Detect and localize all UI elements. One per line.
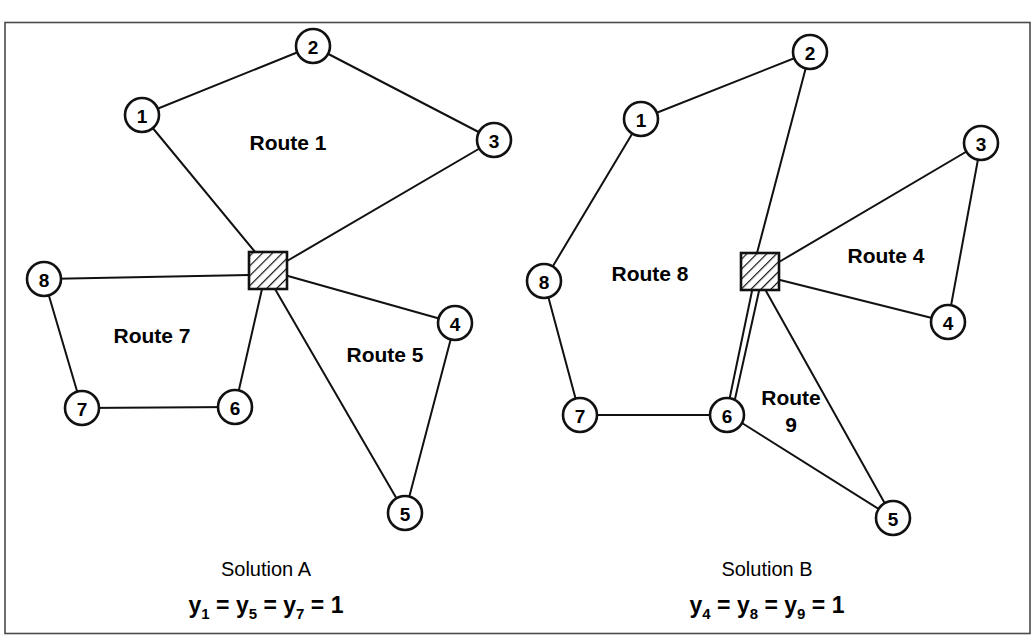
route-label-b-4: Route 4: [847, 244, 924, 267]
caption-sub-a-2: 5: [249, 605, 257, 622]
edge-depot-4: [288, 276, 455, 323]
node-label: 6: [722, 406, 733, 427]
node-b-8[interactable]: 8: [527, 264, 561, 298]
diagram-canvas: 1 2 3 4 5 6 7: [0, 0, 1035, 641]
route-label-a-7: Route 7: [113, 324, 190, 347]
edge-8-7: [44, 279, 82, 408]
node-a-8[interactable]: 8: [27, 262, 61, 296]
node-a-6[interactable]: 6: [218, 390, 252, 424]
node-b-6[interactable]: 6: [710, 398, 744, 432]
depot-square-a[interactable]: [249, 252, 287, 289]
node-label: 7: [575, 406, 586, 427]
edge-5-depot: [275, 289, 405, 513]
caption-title-a: Solution A: [221, 558, 312, 580]
node-label: 2: [308, 37, 319, 58]
node-label: 3: [489, 131, 500, 152]
node-label: 8: [39, 270, 50, 291]
route-label-b-9-line1: Route: [761, 386, 821, 409]
edge-5-6: [742, 423, 893, 518]
node-label: 1: [636, 110, 647, 131]
caption-title-b: Solution B: [721, 558, 812, 580]
node-b-5[interactable]: 5: [876, 501, 910, 535]
node-label: 8: [539, 272, 550, 293]
node-b-3[interactable]: 3: [964, 126, 998, 160]
caption-sub-b-2: 8: [750, 605, 758, 622]
node-label: 4: [943, 313, 954, 334]
caption-value-a: 1: [331, 592, 344, 618]
node-a-3[interactable]: 3: [477, 123, 511, 157]
edge-7-6: [82, 407, 235, 408]
caption-equation-a: y1 = y5 = y7 = 1: [189, 592, 344, 622]
node-b-4[interactable]: 4: [931, 305, 965, 339]
edge-2-3: [313, 46, 494, 140]
figure-container: FIGURE: [0, 0, 1035, 641]
edge-8-depot: [44, 275, 249, 279]
route-label-a-5: Route 5: [346, 343, 423, 366]
caption-sub-b-3: 9: [797, 605, 805, 622]
caption-value-b: 1: [832, 592, 845, 618]
edge-6-depot-a: [727, 291, 752, 411]
node-label: 7: [77, 399, 88, 420]
edge-8-7: [544, 281, 580, 415]
node-b-2[interactable]: 2: [793, 35, 827, 69]
route-label-a-1: Route 1: [249, 131, 326, 154]
edge-3-depot: [287, 140, 494, 261]
node-label: 2: [805, 43, 816, 64]
node-a-2[interactable]: 2: [296, 29, 330, 63]
depot-square-b[interactable]: [741, 253, 779, 290]
edge-1-2: [142, 46, 313, 115]
node-label: 5: [400, 504, 411, 525]
route-label-b-8: Route 8: [611, 262, 688, 285]
edge-depot-1: [142, 115, 256, 253]
edge-4-depot: [780, 280, 948, 322]
node-a-7[interactable]: 7: [65, 391, 99, 425]
edge-2-depot: [757, 52, 810, 253]
route-label-b-9-line2: 9: [785, 413, 797, 436]
caption-sub-a-3: 7: [296, 605, 304, 622]
node-a-5[interactable]: 5: [388, 496, 422, 530]
node-label: 6: [230, 398, 241, 419]
node-a-1[interactable]: 1: [125, 98, 159, 132]
node-b-1[interactable]: 1: [624, 102, 658, 136]
node-label: 1: [137, 106, 148, 127]
edge-6-depot-b: [733, 291, 759, 408]
node-label: 5: [888, 509, 899, 530]
node-a-4[interactable]: 4: [438, 306, 472, 340]
edge-1-2: [641, 52, 810, 119]
node-label: 4: [450, 314, 461, 335]
panel-solution-a: 1 2 3 4 5 6 7: [27, 29, 511, 622]
edge-1-8: [544, 119, 641, 281]
caption-equation-b: y4 = y8 = y9 = 1: [690, 592, 845, 622]
panel-solution-b: 1 2 3 4 5 6 7: [527, 35, 998, 622]
node-b-7[interactable]: 7: [563, 398, 597, 432]
node-label: 3: [976, 134, 987, 155]
edge-3-4: [948, 143, 981, 322]
caption-sub-a-1: 1: [201, 605, 209, 622]
